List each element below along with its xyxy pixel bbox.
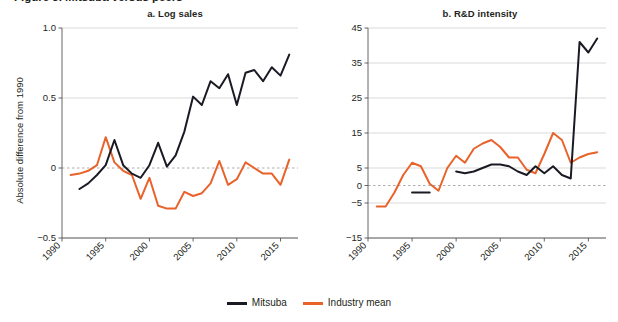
x-tick-label: 2015 bbox=[258, 240, 281, 263]
legend-item-mitsuba: Mitsuba bbox=[227, 297, 287, 309]
y-tick-label: 45 bbox=[351, 22, 362, 33]
y-tick-label: 25 bbox=[351, 92, 362, 103]
figure-legend: Mitsuba Industry mean bbox=[0, 293, 618, 313]
x-tick-label: 2000 bbox=[127, 240, 150, 263]
panel-log-sales: a. Log sales Absolute difference from 19… bbox=[0, 0, 312, 300]
x-tick-label: 1995 bbox=[390, 240, 413, 263]
line-swatch-orange-icon bbox=[303, 302, 323, 305]
y-tick-label: 35 bbox=[351, 57, 362, 68]
line-swatch-black-icon bbox=[227, 302, 247, 305]
series-line-industry-mean bbox=[377, 133, 597, 207]
y-tick-label: 1.0 bbox=[43, 22, 56, 33]
series-line-mitsuba bbox=[456, 39, 597, 179]
y-tick-label: 15 bbox=[351, 127, 362, 138]
panel-a-plot: −0.500.51.0199019952000200520102015 bbox=[0, 0, 312, 300]
panel-b-plot: −15−50515253545199019952000200520102015 bbox=[312, 0, 618, 300]
figure-container: Figure 3. Mitsuba versus peers a. Log sa… bbox=[0, 0, 618, 322]
x-tick-label: 2010 bbox=[215, 240, 238, 263]
series-line-mitsuba bbox=[79, 55, 289, 189]
y-tick-label: 0 bbox=[51, 162, 56, 173]
legend-label-mitsuba: Mitsuba bbox=[252, 297, 287, 309]
x-tick-label: 2010 bbox=[522, 240, 545, 263]
y-tick-label: −5 bbox=[351, 197, 362, 208]
x-tick-label: 2000 bbox=[434, 240, 457, 263]
x-tick-label: 2015 bbox=[566, 240, 589, 263]
y-tick-label: 5 bbox=[357, 162, 362, 173]
legend-item-industry-mean: Industry mean bbox=[303, 297, 391, 309]
series-line-industry-mean bbox=[71, 137, 290, 208]
panel-rd-intensity: b. R&D intensity Absolute difference fro… bbox=[312, 0, 618, 300]
x-tick-label: 1995 bbox=[83, 240, 106, 263]
x-tick-label: 2005 bbox=[171, 240, 194, 263]
y-tick-label: 0.5 bbox=[43, 92, 56, 103]
x-tick-label: 2005 bbox=[478, 240, 501, 263]
y-tick-label: 0 bbox=[357, 180, 362, 191]
legend-label-industry-mean: Industry mean bbox=[328, 297, 391, 309]
